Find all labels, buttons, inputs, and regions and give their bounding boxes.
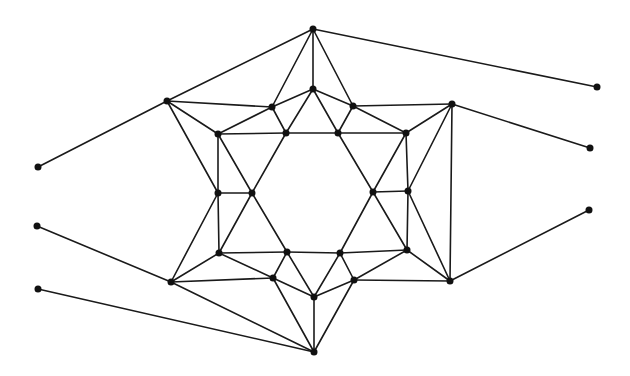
edge-m4-d4: [407, 191, 408, 250]
node-b2: [311, 294, 318, 301]
edge-a1-s1: [218, 107, 272, 134]
node-UL: [164, 98, 171, 105]
edge-T-oR1: [313, 29, 597, 87]
edge-a3-s4: [353, 106, 406, 133]
node-d1: [216, 250, 223, 257]
edge-b3-B: [314, 280, 354, 352]
edge-s2-m2: [252, 133, 286, 193]
edge-m4-LR: [408, 191, 450, 281]
node-s2: [283, 130, 290, 137]
edge-d1-d2: [219, 252, 287, 253]
edge-m2-d1: [219, 193, 252, 253]
node-UR: [449, 101, 456, 108]
edge-T-a3: [313, 29, 353, 106]
node-T: [310, 26, 317, 33]
edge-b2-b3: [314, 280, 354, 297]
edge-d2-b1: [273, 252, 287, 278]
edge-d3-b2: [314, 253, 340, 297]
node-m1: [215, 190, 222, 197]
edge-m3-d4: [373, 192, 407, 250]
edge-UL-m1: [167, 101, 218, 193]
edge-UR-LR: [450, 104, 452, 281]
edge-oL3-B: [38, 289, 314, 352]
graph-nodes: [34, 26, 601, 356]
edge-LR-oR3: [450, 210, 589, 281]
edge-d3-b3: [340, 253, 354, 280]
edge-b1-B: [273, 278, 314, 352]
edge-d2-d3: [287, 252, 340, 253]
edge-m3-m4: [373, 191, 408, 192]
node-m2: [249, 190, 256, 197]
edge-LL-b1: [171, 278, 273, 282]
node-LL: [168, 279, 175, 286]
edge-m2-d2: [252, 193, 287, 252]
edge-a1-s2: [272, 107, 286, 133]
node-oR1: [594, 84, 601, 91]
node-s4: [403, 130, 410, 137]
edge-d4-b3: [354, 250, 407, 280]
edge-T-a1: [272, 29, 313, 107]
edge-s3-m3: [338, 133, 373, 192]
edge-UR-oR2: [452, 104, 590, 148]
graph-edges: [37, 29, 597, 352]
graph-diagram: [0, 0, 630, 376]
node-B: [311, 349, 318, 356]
node-oR3: [586, 207, 593, 214]
edge-a2-s3: [313, 89, 338, 133]
node-a1: [269, 104, 276, 111]
node-m4: [405, 188, 412, 195]
edge-d1-b1: [219, 253, 273, 278]
node-s1: [215, 131, 222, 138]
edge-T-UL: [167, 29, 313, 101]
edge-UL-s1: [167, 101, 218, 134]
node-b3: [351, 277, 358, 284]
node-b1: [270, 275, 277, 282]
node-d2: [284, 249, 291, 256]
edge-s4-m4: [406, 133, 408, 191]
edge-oL2-LL: [37, 226, 171, 282]
node-oL3: [35, 286, 42, 293]
node-oR2: [587, 145, 594, 152]
node-d3: [337, 250, 344, 257]
node-a3: [350, 103, 357, 110]
edge-s1-s2: [218, 133, 286, 134]
edge-UL-oL1: [38, 101, 167, 167]
edge-UL-a1: [167, 101, 272, 107]
edge-a2-a3: [313, 89, 353, 106]
edge-s4-m3: [373, 133, 406, 192]
edge-m1-d1: [218, 193, 219, 253]
edge-a3-s3: [338, 106, 353, 133]
edge-a3-UR: [353, 104, 452, 106]
node-oL1: [35, 164, 42, 171]
edge-LL-B: [171, 282, 314, 352]
node-LR: [447, 278, 454, 285]
node-s3: [335, 130, 342, 137]
edge-d3-d4: [340, 250, 407, 253]
edge-s1-m2: [218, 134, 252, 193]
edge-LR-b3: [354, 280, 450, 281]
node-m3: [370, 189, 377, 196]
node-a2: [310, 86, 317, 93]
node-d4: [404, 247, 411, 254]
edge-m3-d3: [340, 192, 373, 253]
node-oL2: [34, 223, 41, 230]
